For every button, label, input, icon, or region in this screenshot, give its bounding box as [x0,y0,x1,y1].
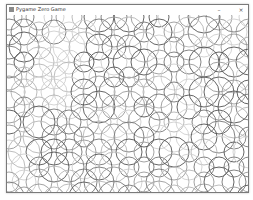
pygame-icon [9,7,14,12]
app-window: Pygame Zero Game – × [6,4,249,193]
close-button[interactable]: × [236,5,246,15]
circle-pattern [7,15,248,192]
window-title: Pygame Zero Game [16,6,66,13]
game-canvas[interactable] [7,15,248,192]
minimize-button[interactable]: – [214,5,224,15]
